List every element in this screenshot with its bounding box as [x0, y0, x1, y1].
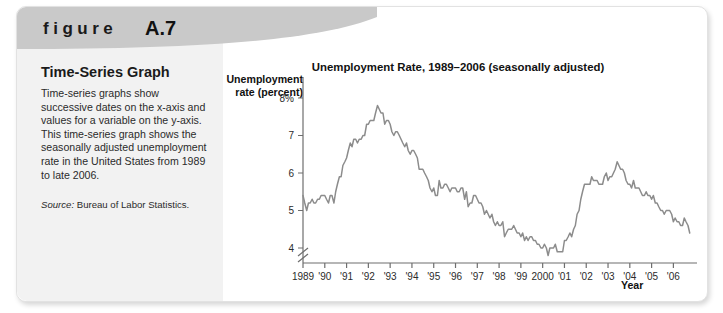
x-tick-label: '98	[493, 271, 506, 282]
x-tick-label: '96	[449, 271, 462, 282]
x-tick-label: '95	[427, 271, 440, 282]
x-tick-label: '02	[580, 271, 593, 282]
x-tick-label: '93	[384, 271, 397, 282]
x-tick-label: '94	[405, 271, 418, 282]
x-tick-label: '91	[340, 271, 353, 282]
x-tick-label: '06	[667, 271, 680, 282]
source-text: Bureau of Labor Statistics.	[77, 199, 190, 210]
figure-root: figure A.7 Time-Series Graph Time-series…	[0, 0, 723, 313]
x-tick-label: '97	[471, 271, 484, 282]
source-label: Source:	[41, 199, 74, 210]
chart-area: Unemployment Rate, 1989–2006 (seasonally…	[223, 7, 707, 301]
caption-source: Source: Bureau of Labor Statistics.	[41, 199, 216, 211]
x-tick-label: '90	[318, 271, 331, 282]
x-tick-label: '05	[645, 271, 658, 282]
x-tick-label: '04	[623, 271, 636, 282]
x-tick-label: '92	[362, 271, 375, 282]
unemployment-line-chart: 45678%1989'90'91'92'93'94'95'96'97'98'99…	[223, 7, 707, 301]
x-tick-label: 1989	[292, 271, 315, 282]
figure-number: A.7	[145, 17, 176, 40]
x-tick-label: '01	[558, 271, 571, 282]
y-tick-label: 6	[288, 168, 294, 179]
figure-card: figure A.7 Time-Series Graph Time-series…	[16, 6, 708, 302]
x-tick-label: 2000	[532, 271, 555, 282]
x-tick-label: '99	[514, 271, 527, 282]
caption-body: Time-series graphs show successive dates…	[41, 87, 207, 182]
caption-title: Time-Series Graph	[41, 64, 216, 80]
y-tick-label: 5	[288, 205, 294, 216]
figure-kicker: figure	[43, 19, 117, 39]
y-tick-label: 4	[288, 243, 294, 254]
x-tick-label: '03	[602, 271, 615, 282]
y-tick-label: 7	[288, 130, 294, 141]
y-tick-label: 8%	[280, 93, 295, 104]
series-line	[303, 106, 690, 256]
